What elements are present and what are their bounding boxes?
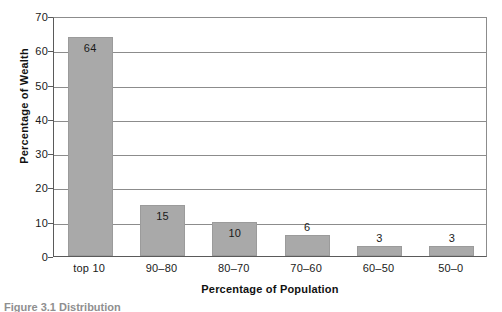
bar: 6: [285, 235, 330, 256]
gridline: [54, 224, 486, 225]
x-axis-tick-label: 90–80: [125, 262, 197, 274]
y-axis-tick-mark: [48, 257, 53, 258]
x-axis-tick-labels: top 1090–8080–7070–6060–5050–0: [53, 262, 487, 278]
x-axis-tick-label: 50–0: [415, 262, 487, 274]
bar: 3: [357, 246, 402, 256]
bar-value-label: 10: [213, 227, 256, 239]
gridline: [54, 121, 486, 122]
bar: 3: [429, 246, 474, 256]
bar-value-label: 64: [69, 42, 112, 54]
x-axis-tick-label: 60–50: [342, 262, 414, 274]
x-axis-tick-label: 70–60: [270, 262, 342, 274]
bar-value-label: 6: [286, 221, 329, 233]
gridline: [54, 189, 486, 190]
gridline: [54, 52, 486, 53]
figure-bar-chart: Percentage of Wealth 010203040506070 641…: [0, 0, 502, 312]
figure-caption: Figure 3.1 Distribution: [4, 301, 304, 312]
x-axis-tick-label: top 10: [53, 262, 125, 274]
gridline: [54, 87, 486, 88]
bar-value-label: 3: [358, 232, 401, 244]
bar-value-label: 3: [430, 232, 473, 244]
bar-value-label: 15: [141, 210, 184, 222]
x-axis-title: Percentage of Population: [53, 283, 487, 295]
y-axis-tick-marks: [0, 17, 53, 257]
plot-area: 641510633: [53, 17, 487, 257]
x-axis-tick-label: 80–70: [198, 262, 270, 274]
bar: 64: [68, 37, 113, 256]
gridline: [54, 155, 486, 156]
bar: 15: [140, 205, 185, 256]
bar: 10: [212, 222, 257, 256]
